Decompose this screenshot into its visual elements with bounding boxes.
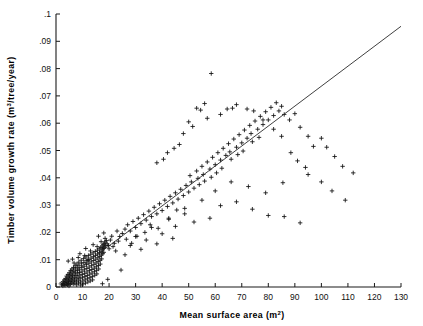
data-point-marker — [289, 150, 293, 154]
data-point-marker — [208, 216, 212, 220]
data-point-marker — [171, 236, 175, 240]
data-point-marker — [277, 109, 281, 113]
data-point-marker — [263, 110, 267, 114]
data-point-marker — [152, 205, 156, 209]
x-tick-label: 100 — [314, 292, 328, 302]
data-point-marker — [106, 277, 110, 281]
data-point-marker — [202, 179, 206, 183]
data-point-marker — [343, 198, 347, 202]
data-point-marker — [131, 219, 135, 223]
data-point-marker — [100, 282, 104, 286]
data-point-marker — [216, 150, 220, 154]
data-point-marker — [139, 247, 143, 251]
data-point-marker — [198, 108, 202, 112]
data-point-marker — [155, 212, 159, 216]
y-tick-label: .04 — [39, 173, 51, 183]
data-point-marker — [229, 180, 233, 184]
data-point-marker — [110, 234, 114, 238]
data-point-marker — [114, 249, 118, 253]
data-point-marker — [161, 157, 165, 161]
data-point-marker — [108, 238, 112, 242]
data-point-marker — [257, 135, 261, 139]
data-point-marker — [86, 280, 90, 284]
data-point-marker — [242, 128, 246, 132]
data-point-marker — [66, 259, 70, 263]
data-point-marker — [209, 175, 213, 179]
data-point-marker — [91, 242, 95, 246]
data-point-marker — [279, 104, 283, 108]
data-point-marker — [155, 242, 159, 246]
data-point-marker — [83, 281, 87, 285]
data-point-marker — [192, 220, 196, 224]
data-point-marker — [330, 189, 334, 193]
data-point-marker — [115, 229, 119, 233]
data-point-marker — [78, 251, 82, 255]
data-point-marker — [141, 212, 145, 216]
data-point-marker — [119, 268, 123, 272]
data-point-marker — [261, 122, 265, 126]
x-tick-label: 30 — [131, 292, 141, 302]
data-point-marker — [167, 216, 171, 220]
data-point-marker — [253, 119, 257, 123]
y-tick-label: .1 — [44, 9, 51, 19]
data-point-marker — [234, 200, 238, 204]
data-point-marker — [232, 137, 236, 141]
y-tick-label: .06 — [39, 118, 51, 128]
data-point-marker — [281, 181, 285, 185]
data-point-marker — [84, 246, 88, 250]
data-point-marker — [298, 125, 302, 129]
data-point-marker — [165, 150, 169, 154]
data-point-marker — [319, 136, 323, 140]
y-tick-label: .08 — [39, 64, 51, 74]
y-tick-label: 0 — [46, 282, 51, 292]
data-point-marker — [245, 136, 249, 140]
data-point-marker — [160, 208, 164, 212]
data-point-marker — [218, 112, 222, 116]
data-point-marker — [225, 107, 229, 111]
data-point-marker — [173, 224, 177, 228]
y-tick-label: .09 — [39, 36, 51, 46]
data-point-marker — [156, 226, 160, 230]
y-axis-title: Timber volume growth rate (m3/tree/year) — [6, 56, 16, 243]
data-point-marker — [221, 146, 225, 150]
x-axis-title: Mean surface area (m2) — [179, 310, 284, 320]
data-point-marker — [269, 105, 273, 109]
x-tick-label: 110 — [341, 292, 355, 302]
data-point-marker — [332, 154, 336, 158]
data-point-marker — [306, 134, 310, 138]
y-tick-label: .02 — [39, 227, 51, 237]
data-point-marker — [176, 197, 180, 201]
data-point-marker — [70, 257, 74, 261]
y-tick-label: .07 — [39, 91, 51, 101]
y-tick-label: .01 — [39, 255, 51, 265]
data-point-marker — [192, 186, 196, 190]
x-tick-label: 0 — [54, 292, 59, 302]
data-point-marker — [143, 230, 147, 234]
data-point-marker — [230, 106, 234, 110]
data-point-marker — [295, 159, 299, 163]
x-tick-label: 50 — [184, 292, 194, 302]
data-point-marker — [271, 127, 275, 131]
data-point-marker — [246, 184, 250, 188]
data-point-marker — [183, 206, 187, 210]
data-point-marker — [95, 244, 99, 248]
data-point-marker — [123, 227, 127, 231]
data-point-marker — [319, 180, 323, 184]
data-point-marker — [177, 142, 181, 146]
x-tick-label: 20 — [104, 292, 114, 302]
data-point-marker — [160, 232, 164, 236]
data-point-marker — [241, 149, 245, 153]
data-point-marker — [306, 172, 310, 176]
data-point-marker — [165, 204, 169, 208]
data-point-marker — [248, 123, 252, 127]
data-point-marker — [229, 157, 233, 161]
data-point-marker — [200, 198, 204, 202]
data-point-marker — [124, 237, 128, 241]
data-point-marker — [205, 116, 209, 120]
data-point-marker — [249, 131, 253, 135]
data-point-marker — [287, 118, 291, 122]
data-point-marker — [214, 171, 218, 175]
data-point-marker — [125, 223, 129, 227]
data-point-marker — [168, 194, 172, 198]
x-tick-label: 130 — [394, 292, 408, 302]
